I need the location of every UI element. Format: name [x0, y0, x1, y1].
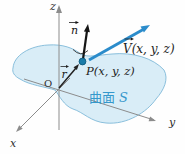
normal-vector-arrow — [83, 24, 90, 59]
point-P-dot — [79, 58, 86, 65]
point-P-label: P(x, y, z) — [85, 64, 135, 78]
y-axis-arrowhead-icon — [149, 117, 156, 122]
surface-region — [13, 45, 166, 123]
normal-vector-label: n — [71, 24, 78, 37]
surface-label-s: S — [119, 90, 128, 105]
position-vector-label: r — [62, 68, 68, 81]
x-axis-label: x — [10, 137, 17, 150]
vector-field-surface-diagram: z x y O n r V(x, y, z) P(x, y, z) 曲面 S — [0, 0, 185, 154]
z-axis-label: z — [49, 0, 56, 13]
y-axis-label: y — [168, 116, 176, 129]
diagram-canvas: z x y O n r V(x, y, z) P(x, y, z) 曲面 S — [0, 0, 185, 154]
field-vector-label: V(x, y, z) — [123, 42, 175, 56]
origin-label: O — [44, 78, 52, 89]
surface-label-cjk: 曲面 — [89, 90, 115, 105]
z-axis-arrowhead-icon — [56, 5, 62, 13]
